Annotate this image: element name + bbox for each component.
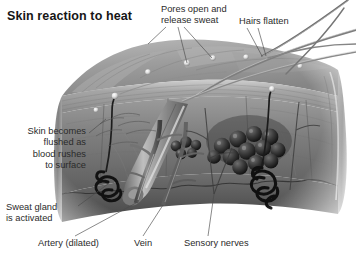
skin-block-right-face (338, 70, 347, 214)
label-vein: Vein (134, 238, 164, 249)
leader-line-vein-0 (143, 205, 163, 236)
label-sweat-gland-activated: Sweat gland is activated (6, 202, 78, 225)
label-skin-becomes-flushed: Skin becomes flushed as blood rushes to … (2, 126, 86, 172)
label-pores-open-release-sweat: Pores open and release sweat (161, 4, 245, 27)
label-artery-dilated: Artery (dilated) (38, 238, 116, 249)
skin-block (54, 39, 347, 222)
label-hairs-flatten: Hairs flatten (239, 16, 303, 27)
label-sensory-nerves: Sensory nerves (184, 238, 264, 249)
skin-reaction-figure: Skin reaction to heat Pores open and rel… (0, 0, 356, 254)
page-title: Skin reaction to heat (7, 9, 132, 23)
